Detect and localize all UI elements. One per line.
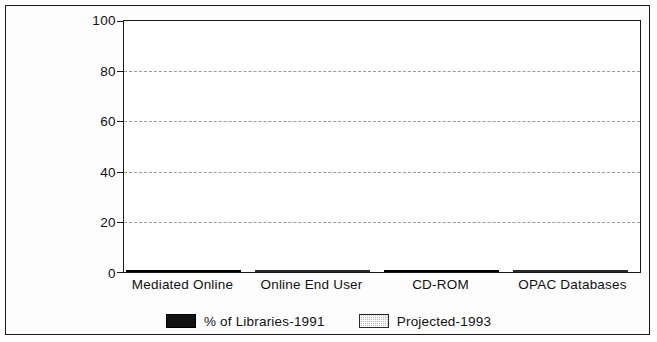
y-tick-mark-20 [117,222,124,223]
x-axis-labels: Mediated Online Online End User CD-ROM O… [123,277,641,299]
y-tick-label-60: 60 [100,114,116,129]
x-tick-label-mediated-online: Mediated Online [123,277,242,292]
y-tick-mark-60 [117,121,124,122]
legend-entry-projected-1993[interactable]: Projected-1993 [359,314,491,329]
legend-label-libraries-1991: % of Libraries-1991 [204,314,325,329]
x-tick-label-online-end-user: Online End User [252,277,371,292]
plot-area [123,20,641,273]
y-tick-label-80: 80 [100,63,116,78]
bar-segment-libraries-1991-mediated-online[interactable] [126,270,241,272]
y-tick-label-20: 20 [100,215,116,230]
hatched-swatch-icon [359,314,389,328]
legend-label-projected-1993: Projected-1993 [397,314,491,329]
bar-slot-opac-databases [513,21,628,272]
y-tick-label-100: 100 [92,13,116,28]
bar-slot-online-end-user [255,21,370,272]
bar-segment-libraries-1991-cd-rom[interactable] [384,270,499,272]
y-tick-mark-40 [117,172,124,173]
y-axis: 100 80 60 40 20 0 [66,20,116,273]
black-swatch-icon [166,314,196,328]
y-tick-mark-100 [117,21,124,22]
y-tick-label-0: 0 [108,266,116,281]
x-tick-label-cd-rom: CD-ROM [381,277,500,292]
bar-slot-mediated-online [126,21,241,272]
stacked-bar-chart: 100 80 60 40 20 0 [6,6,651,336]
y-tick-label-40: 40 [100,164,116,179]
x-tick-label-opac-databases: OPAC Databases [510,277,635,292]
bar-segment-projected-1993-online-end-user[interactable] [255,270,370,272]
chart-legend: % of Libraries-1991 Projected-1993 [6,308,651,334]
bar-segment-projected-1993-opac-databases[interactable] [513,270,628,272]
y-tick-mark-0 [117,272,124,273]
y-tick-mark-80 [117,71,124,72]
figure-frame: 100 80 60 40 20 0 [5,5,650,335]
legend-entry-libraries-1991[interactable]: % of Libraries-1991 [166,314,325,329]
bar-slot-cd-rom [384,21,499,272]
